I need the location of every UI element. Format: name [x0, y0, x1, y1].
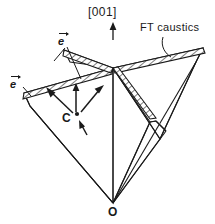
vector-arrow-overbar-icon: [59, 33, 68, 34]
diagram-canvas: [0, 0, 215, 224]
polarization-vector-letter-1: e: [58, 35, 64, 47]
vector-arrow-overbar-icon: [11, 76, 20, 77]
ft-caustics-label: FT caustics: [140, 22, 199, 33]
axis-direction-label: [001]: [88, 6, 117, 18]
axis-arrow: [110, 22, 117, 40]
polarization-vector-letter-2: e: [10, 78, 16, 90]
point-c-label: C: [62, 112, 71, 124]
ft-caustics-figure: [001] FT caustics C O e e: [0, 0, 215, 224]
polarization-vector-label-2: e: [10, 76, 20, 90]
point-c-marker: [75, 112, 79, 116]
polarization-vector-label-1: e: [58, 33, 68, 47]
origin-label: O: [108, 206, 117, 218]
